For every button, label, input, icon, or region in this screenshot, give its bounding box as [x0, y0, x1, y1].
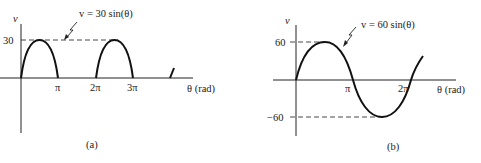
y-tick-minus-60: −60: [267, 112, 283, 123]
y-axis-label-b: v: [285, 15, 290, 26]
figure-b: v 60 −60 π 2π θ (rad) v = 60 sin(θ) (b): [267, 15, 466, 153]
x-tick-2pi-a: 2π: [90, 82, 101, 93]
equation-arrow-a: [67, 22, 77, 37]
equation-a: v = 30 sin(θ): [79, 8, 133, 20]
half-wave-curve-3-start: [170, 68, 174, 78]
x-tick-pi-a: π: [55, 82, 61, 93]
x-tick-3pi-a: 3π: [127, 82, 138, 93]
x-axis-label-a: θ (rad): [187, 83, 216, 95]
y-tick-30: 30: [3, 35, 14, 46]
diagram-canvas: v 30 π 2π 3π θ (rad) v = 30 sin(θ) (a) v…: [0, 0, 481, 163]
equation-b: v = 60 sin(θ): [361, 19, 415, 31]
equation-arrow-b: [346, 27, 356, 43]
y-tick-60: 60: [275, 37, 286, 48]
figure-a: v 30 π 2π 3π θ (rad) v = 30 sin(θ) (a): [0, 8, 216, 151]
caption-a: (a): [86, 139, 98, 151]
half-wave-curve-2: [96, 40, 133, 78]
half-wave-curve-1: [21, 40, 58, 78]
x-tick-2pi-b: 2π: [398, 83, 409, 94]
x-axis-label-b: θ (rad): [437, 84, 466, 96]
caption-b: (b): [387, 141, 400, 153]
y-axis-label-a: v: [13, 13, 18, 24]
x-tick-pi-b: π: [345, 83, 351, 94]
